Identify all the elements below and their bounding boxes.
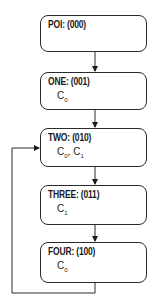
state-vars: C1: [57, 203, 68, 216]
state-one: ONE: (001) C0: [40, 72, 147, 110]
state-vars: C0: [57, 260, 68, 273]
state-poi: POI: (000): [40, 15, 147, 52]
state-vars: C0: [57, 90, 68, 103]
state-title: TWO: (010): [48, 132, 91, 143]
state-three: THREE: (011) C1: [40, 185, 147, 225]
state-title: FOUR: (100): [48, 246, 95, 257]
state-four: FOUR: (100) C0: [40, 242, 147, 283]
state-title: POI: (000): [48, 19, 86, 30]
state-vars: C0, C1: [57, 146, 84, 159]
state-two: TWO: (010) C0, C1: [40, 128, 147, 167]
state-title: ONE: (001): [48, 76, 90, 87]
state-title: THREE: (011): [48, 189, 99, 200]
